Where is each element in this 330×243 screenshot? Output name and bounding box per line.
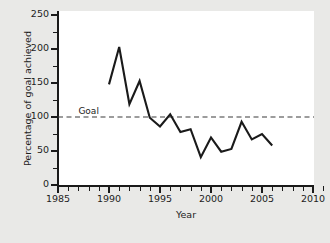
y-axis-title: Percentage of goal achieved xyxy=(22,19,33,179)
chart-canvas xyxy=(0,0,330,243)
x-axis-title: Year xyxy=(58,209,314,220)
goal-annotation-label: Goal xyxy=(78,106,99,116)
data-series-line xyxy=(109,47,272,157)
chart-figure: 050100150200250 198519901995200020052010… xyxy=(0,0,330,243)
